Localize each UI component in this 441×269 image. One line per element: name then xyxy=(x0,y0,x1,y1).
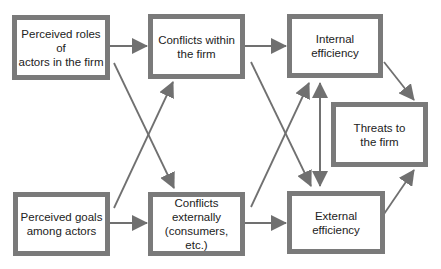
node-perceived-roles: Perceived roles of actors in the firm xyxy=(12,15,110,80)
node-perceived-goals: Perceived goals among actors xyxy=(13,192,110,256)
node-conflicts-externally: Conflicts externally (consumers, etc.) xyxy=(148,192,245,256)
arrow-conflicts-within-to-external xyxy=(251,62,311,186)
arrow-goals-to-conflicts-within xyxy=(114,82,173,208)
arrow-roles-to-conflicts-external xyxy=(114,63,174,188)
node-label: Threats to the firm xyxy=(354,121,406,149)
arrow-conflicts-external-to-internal xyxy=(251,83,309,207)
node-label: Perceived roles of actors in the firm xyxy=(17,27,105,69)
node-threats: Threats to the firm xyxy=(331,102,428,167)
node-label: Conflicts within the firm xyxy=(158,33,235,61)
node-label: External efficiency xyxy=(312,209,360,237)
node-internal-efficiency: Internal efficiency xyxy=(287,14,383,78)
node-external-efficiency: External efficiency xyxy=(287,191,385,254)
node-label: Perceived goals among actors xyxy=(21,210,103,238)
node-conflicts-within: Conflicts within the firm xyxy=(148,14,245,79)
node-label: Internal efficiency xyxy=(311,32,359,60)
arrow-external-to-threats xyxy=(384,170,414,214)
arrow-internal-to-threats xyxy=(384,62,414,100)
node-label: Conflicts externally (consumers, etc.) xyxy=(153,196,240,252)
